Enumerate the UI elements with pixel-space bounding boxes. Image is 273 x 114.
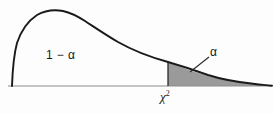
alpha-leader-line [190, 57, 209, 72]
alpha-tail-shaded-region [168, 62, 272, 86]
body-region-label: 1 − α [46, 49, 75, 61]
chi-exponent: 2 [166, 89, 170, 98]
chi-square-distribution-figure: 1 − α α χ2 [0, 0, 273, 114]
critical-value-label: χ2 [160, 90, 170, 103]
tail-region-label: α [210, 46, 217, 58]
distribution-plot-canvas [0, 0, 273, 114]
